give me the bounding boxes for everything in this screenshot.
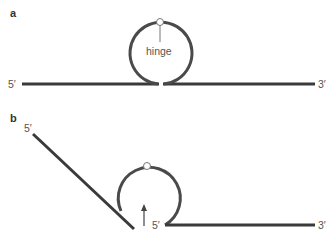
- panel-b-top-5prime-label: 5′: [24, 122, 32, 134]
- diagram-canvas: a 5′ 3′ hinge b 5′ 3′ 5′: [0, 0, 335, 235]
- panel-b-3prime-label: 3′: [318, 219, 326, 231]
- panel-b-diagonal-strand: [33, 134, 134, 229]
- panel-a: a 5′ 3′ hinge: [8, 7, 326, 90]
- hinge-label: hinge: [146, 45, 172, 57]
- panel-b: b 5′ 3′ 5′: [10, 112, 326, 231]
- panel-a-5prime-label: 5′: [8, 78, 16, 90]
- panel-b-loop: [118, 167, 180, 225]
- panel-b-inner-5prime-label: 5′: [152, 219, 160, 231]
- panel-b-label: b: [10, 112, 17, 124]
- panel-b-hinge-icon: [144, 163, 151, 170]
- panel-a-label: a: [10, 7, 17, 19]
- panel-a-3prime-label: 3′: [318, 78, 326, 90]
- panel-a-hinge-icon: [157, 19, 164, 26]
- up-arrow-icon: [141, 204, 147, 226]
